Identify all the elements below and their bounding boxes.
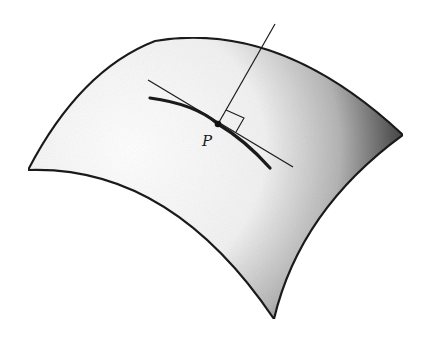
surface-patch: [28, 38, 403, 319]
point-p: [215, 121, 222, 128]
point-p-label: P: [201, 132, 213, 150]
surface-normal-diagram: P: [0, 0, 424, 337]
